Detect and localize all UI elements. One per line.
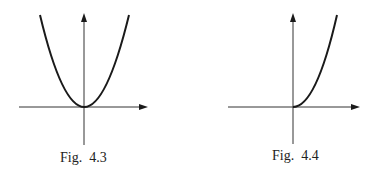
y-axis-arrow-icon bbox=[81, 13, 87, 22]
figure-4-3 bbox=[19, 13, 148, 145]
figures-canvas bbox=[0, 0, 378, 174]
figure-caption-4-3: Fig. 4.3 bbox=[60, 150, 107, 166]
y-axis-arrow-icon bbox=[290, 13, 296, 22]
figure-4-4 bbox=[228, 13, 360, 144]
x-axis-arrow-icon bbox=[351, 104, 360, 110]
figure-caption-4-4: Fig. 4.4 bbox=[272, 148, 319, 164]
half-curve bbox=[293, 15, 337, 107]
x-axis-arrow-icon bbox=[139, 104, 148, 110]
